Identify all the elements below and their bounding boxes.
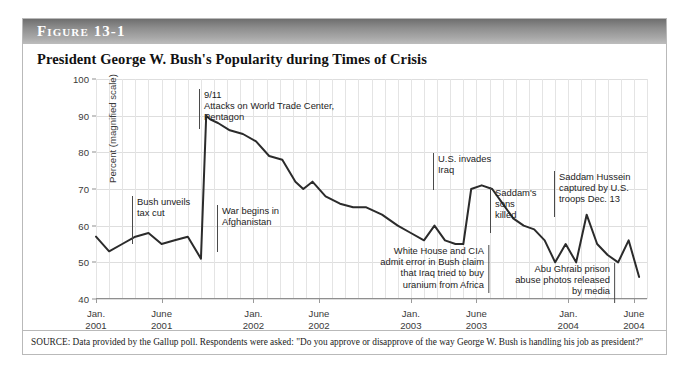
y-tick-label: 100 (73, 74, 89, 85)
annotation-wmd-uranium: White House and CIA admit error in Bush … (380, 245, 489, 293)
gridline-vertical (647, 79, 648, 299)
x-tick-label: June2004 (623, 308, 644, 331)
annotation-nine-eleven: 9/11 Attacks on World Trade Center, Pent… (199, 89, 334, 129)
annotation-us-invades-iraq: U.S. invades Iraq (433, 153, 491, 190)
y-tick-label: 40 (78, 294, 89, 305)
y-tick-label: 90 (78, 110, 89, 121)
x-tick-mark (162, 299, 163, 303)
y-tick-mark (92, 152, 96, 153)
y-tick-label: 60 (78, 220, 89, 231)
y-tick-label: 50 (78, 257, 89, 268)
x-tick-label: Jan.2004 (558, 308, 579, 331)
x-tick-mark (411, 299, 412, 303)
x-tick-label: Jan.2002 (243, 308, 264, 331)
x-tick-label: Jan.2003 (400, 308, 421, 331)
figure-title: President George W. Bush's Popularity du… (37, 51, 427, 68)
figure-header-bar: Figure 13-1 (23, 19, 666, 44)
y-tick-label: 70 (78, 184, 89, 195)
x-tick-label: June2002 (308, 308, 329, 331)
figure-source-note: SOURCE: Data provided by the Gallup poll… (31, 336, 658, 348)
y-tick-mark (92, 79, 96, 80)
x-tick-mark (634, 299, 635, 303)
annotation-abu-ghraib: Abu Ghraib prison abuse photos released … (515, 263, 615, 303)
annotation-saddam-sons-killed: Saddam's sons killed (490, 187, 536, 233)
figure-container: Figure 13-1 President George W. Bush's P… (22, 18, 667, 355)
x-tick-label: June2001 (151, 308, 172, 331)
y-tick-mark (92, 225, 96, 226)
y-tick-mark (92, 262, 96, 263)
source-divider (23, 330, 666, 331)
annotation-saddam-captured: Saddam Hussein captured by U.S. troops D… (554, 171, 630, 217)
x-tick-mark (476, 299, 477, 303)
figure-number-label: Figure 13-1 (37, 23, 126, 40)
x-tick-label: June2003 (466, 308, 487, 331)
x-tick-mark (253, 299, 254, 303)
annotation-war-afghanistan: War begins in Afghanistan (217, 205, 279, 252)
x-tick-mark (96, 299, 97, 303)
y-tick-mark (92, 189, 96, 190)
y-tick-mark (92, 115, 96, 116)
annotation-bush-tax-cut: Bush unveils tax cut (132, 196, 190, 244)
x-tick-mark (319, 299, 320, 303)
x-tick-label: Jan.2001 (85, 308, 106, 331)
y-tick-label: 80 (78, 147, 89, 158)
